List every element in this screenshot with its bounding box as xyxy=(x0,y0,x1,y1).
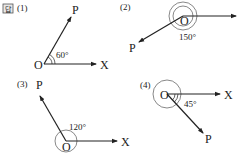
vertex-label: O xyxy=(160,88,169,102)
x-label: X xyxy=(100,58,109,72)
panel-3-number: (3) xyxy=(17,79,28,89)
angle-label: 120° xyxy=(69,122,87,132)
vertex-label: O xyxy=(180,14,189,28)
angle-label: 45° xyxy=(184,99,197,109)
x-label: X xyxy=(224,88,233,102)
vertex-label: O xyxy=(62,140,71,154)
vertex-label: O xyxy=(34,58,43,72)
p-label: P xyxy=(205,132,212,146)
panel-1-number: (1) xyxy=(17,3,28,13)
panel-4: (4) O 45° X P xyxy=(140,80,233,146)
answer-badge: 답 xyxy=(3,4,13,14)
ray-op xyxy=(139,16,183,42)
panel-2-number: (2) xyxy=(120,2,131,12)
p-label: P xyxy=(36,78,43,92)
panel-3: (3) P O 120° X xyxy=(17,78,130,154)
ray-op xyxy=(40,96,66,141)
x-label: X xyxy=(121,135,130,149)
angle-label: 150° xyxy=(179,32,197,42)
angle-arc xyxy=(173,94,176,100)
panel-1: (1) 60° O X P xyxy=(17,3,109,72)
panel-4-number: (4) xyxy=(140,80,151,90)
panel-2: (2) O 150° P xyxy=(120,2,236,55)
angle-diagrams: 답 (1) 60° O X P (2) O 150° P (3) P O 120… xyxy=(0,0,238,156)
p-label: P xyxy=(72,3,79,17)
answer-badge-label: 답 xyxy=(5,5,12,14)
p-label: P xyxy=(129,41,136,55)
angle-arc xyxy=(48,57,52,64)
angle-label: 60° xyxy=(56,50,69,60)
